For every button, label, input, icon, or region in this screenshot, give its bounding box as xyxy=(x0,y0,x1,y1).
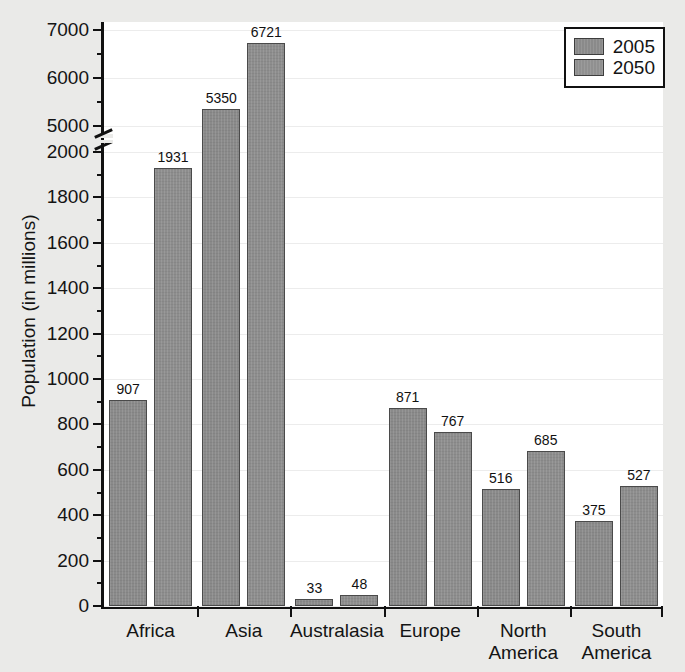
y-tick-label-800: 800 xyxy=(57,413,89,435)
y-tick-minor-1100 xyxy=(97,355,104,357)
y-tick-label-0: 0 xyxy=(78,595,89,617)
x-tick-4 xyxy=(477,606,479,617)
y-tick-minor-100 xyxy=(97,582,104,584)
x-tick-1 xyxy=(197,606,199,617)
bar-value-south-america-2050: 527 xyxy=(627,467,650,483)
y-tick-1600 xyxy=(93,242,104,244)
y-tick-200 xyxy=(93,560,104,562)
y-tick-1200 xyxy=(93,333,104,335)
y-tick-5000 xyxy=(93,125,104,127)
bar-value-africa-2005: 907 xyxy=(116,381,139,397)
x-tick-end xyxy=(661,606,663,617)
x-axis-label-australasia: Australasia xyxy=(290,620,384,642)
bar-value-africa-2050: 1931 xyxy=(158,149,189,165)
y-tick-minor-6500 xyxy=(97,53,104,55)
legend-label-2050: 2050 xyxy=(613,58,655,77)
y-tick-minor-1900 xyxy=(97,174,104,176)
x-tick-2 xyxy=(290,606,292,617)
legend-swatch-2050 xyxy=(574,59,604,76)
x-axis-label-africa: Africa xyxy=(126,620,175,642)
y-tick-label-1000: 1000 xyxy=(47,368,89,390)
x-tick-3 xyxy=(384,606,386,617)
bar-europe-2005 xyxy=(389,408,427,606)
y-tick-800 xyxy=(93,423,104,425)
bar-south-america-2050 xyxy=(620,486,658,606)
legend-item-2050: 2050 xyxy=(574,58,655,77)
y-tick-label-7000: 7000 xyxy=(47,19,89,41)
y-axis-title: Population (in millions) xyxy=(18,161,40,461)
x-tick-5 xyxy=(570,606,572,617)
y-tick-6000 xyxy=(93,77,104,79)
y-tick-minor-300 xyxy=(97,537,104,539)
figure: Population (in millions) 020040060080010… xyxy=(0,0,685,672)
bar-australasia-2005 xyxy=(295,599,333,606)
bar-australasia-2050 xyxy=(340,595,378,606)
bar-value-asia-2005: 5350 xyxy=(206,90,237,106)
bar-asia-2005 xyxy=(202,109,240,606)
x-axis-label-north-america: NorthAmerica xyxy=(488,620,558,664)
bar-value-north-america-2005: 516 xyxy=(489,470,512,486)
y-tick-1000 xyxy=(93,378,104,380)
legend: 2005 2050 xyxy=(564,27,665,88)
gridline-5000 xyxy=(104,126,663,127)
y-tick-minor-900 xyxy=(97,401,104,403)
y-tick-label-2000: 2000 xyxy=(47,141,89,163)
x-axis-label-south-america: SouthAmerica xyxy=(582,620,652,664)
bar-africa-2050 xyxy=(154,168,192,606)
y-tick-minor-500 xyxy=(97,492,104,494)
y-tick-label-1600: 1600 xyxy=(47,232,89,254)
plot-area: 0200400600800100012001400160018002000500… xyxy=(101,22,663,609)
x-axis-label-europe: Europe xyxy=(399,620,460,642)
bar-europe-2050 xyxy=(434,432,472,606)
y-tick-minor-5500 xyxy=(97,101,104,103)
y-tick-minor-700 xyxy=(97,446,104,448)
y-tick-label-1800: 1800 xyxy=(47,186,89,208)
y-tick-7000 xyxy=(93,29,104,31)
y-tick-label-5000: 5000 xyxy=(47,115,89,137)
legend-label-2005: 2005 xyxy=(613,37,655,56)
y-tick-minor-1500 xyxy=(97,265,104,267)
y-tick-label-200: 200 xyxy=(57,550,89,572)
bar-value-europe-2050: 767 xyxy=(441,413,464,429)
bar-value-asia-2050: 6721 xyxy=(251,24,282,40)
legend-swatch-2005 xyxy=(574,38,604,55)
y-tick-2000 xyxy=(93,151,104,153)
bar-south-america-2005 xyxy=(575,521,613,606)
y-tick-1400 xyxy=(93,287,104,289)
y-tick-600 xyxy=(93,469,104,471)
y-tick-label-6000: 6000 xyxy=(47,67,89,89)
y-tick-1800 xyxy=(93,196,104,198)
bar-africa-2005 xyxy=(109,400,147,606)
y-tick-label-1400: 1400 xyxy=(47,277,89,299)
legend-item-2005: 2005 xyxy=(574,37,655,56)
bar-north-america-2050 xyxy=(527,451,565,606)
bar-value-europe-2005: 871 xyxy=(396,389,419,405)
y-tick-label-1200: 1200 xyxy=(47,323,89,345)
y-tick-minor-1700 xyxy=(97,219,104,221)
bar-value-north-america-2050: 685 xyxy=(534,432,557,448)
bar-value-australasia-2050: 48 xyxy=(352,576,368,592)
y-tick-label-600: 600 xyxy=(57,459,89,481)
axis-break-mask-lower xyxy=(93,140,113,143)
bar-value-australasia-2005: 33 xyxy=(307,580,323,596)
bar-value-south-america-2005: 375 xyxy=(582,502,605,518)
bar-asia-2050 xyxy=(247,43,285,606)
y-tick-minor-1300 xyxy=(97,310,104,312)
y-tick-label-400: 400 xyxy=(57,504,89,526)
x-axis-label-asia: Asia xyxy=(225,620,262,642)
bar-north-america-2005 xyxy=(482,489,520,606)
y-tick-0 xyxy=(93,605,104,607)
y-tick-400 xyxy=(93,514,104,516)
